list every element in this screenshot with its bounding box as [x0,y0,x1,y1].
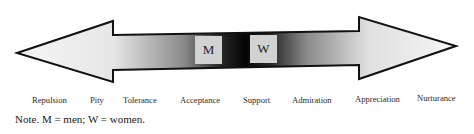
label-support: Support [243,95,270,105]
label-repulsion: Repulsion [32,95,67,105]
men-marker: M [195,36,222,64]
label-pity: Pity [90,95,104,105]
label-appreciation: Appreciation [355,94,400,104]
women-marker: W [250,35,277,63]
label-tolerance: Tolerance [123,95,157,105]
figure-note: Note. M = men; W = women. [15,113,145,125]
arrow-shape [17,17,456,82]
men-marker-label: M [203,42,215,58]
label-admiration: Admiration [292,95,332,105]
label-acceptance: Acceptance [180,95,220,105]
women-marker-label: W [257,41,269,57]
label-nurturance: Nurturance [417,93,456,103]
